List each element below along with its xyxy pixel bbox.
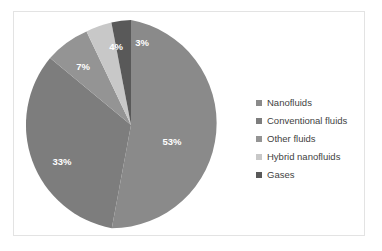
- chart-legend: Nanofluids Conventional fluids Other flu…: [256, 94, 364, 184]
- slice-label-nanofluids: 53%: [162, 136, 182, 147]
- legend-label: Conventional fluids: [267, 115, 347, 126]
- legend-item-gases[interactable]: Gases: [256, 166, 364, 183]
- chart-frame: 53% 33% 7% 4% 3% Nanofluids Conventional…: [13, 11, 365, 236]
- legend-label: Nanofluids: [267, 97, 312, 108]
- legend-item-hybrid-nanofluids[interactable]: Hybrid nanofluids: [256, 148, 364, 165]
- legend-swatch-icon: [256, 172, 262, 178]
- slice-label-gases: 3%: [135, 37, 149, 48]
- legend-swatch-icon: [256, 154, 262, 160]
- slice-label-other-fluids: 7%: [76, 61, 90, 72]
- legend-label: Other fluids: [267, 133, 316, 144]
- legend-swatch-icon: [256, 136, 262, 142]
- pie-chart: 53% 33% 7% 4% 3%: [20, 14, 242, 236]
- slice-label-conventional-fluids: 33%: [52, 156, 72, 167]
- pie-chart-plot-area: 53% 33% 7% 4% 3% Nanofluids Conventional…: [14, 12, 364, 235]
- legend-item-conventional-fluids[interactable]: Conventional fluids: [256, 112, 364, 129]
- legend-item-other-fluids[interactable]: Other fluids: [256, 130, 364, 147]
- legend-swatch-icon: [256, 100, 262, 106]
- legend-label: Gases: [267, 169, 294, 180]
- legend-item-nanofluids[interactable]: Nanofluids: [256, 94, 364, 111]
- legend-label: Hybrid nanofluids: [267, 151, 340, 162]
- slice-label-hybrid-nanofluids: 4%: [109, 41, 123, 52]
- legend-swatch-icon: [256, 118, 262, 124]
